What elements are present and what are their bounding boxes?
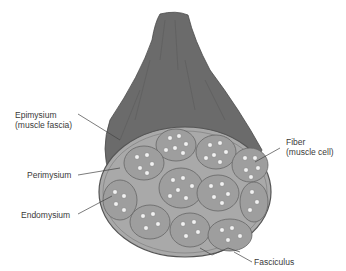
label-fiber: Fiber (muscle cell) xyxy=(286,137,334,157)
label-endomysium: Endomysium xyxy=(21,210,70,220)
label-fiber-line2: (muscle cell) xyxy=(286,147,334,157)
label-epimysium: Epimysium (muscle fascia) xyxy=(15,110,72,130)
label-perimysium: Perimysium xyxy=(27,170,71,180)
label-fasciculus: Fasciculus xyxy=(254,257,294,267)
muscle-diagram xyxy=(0,0,346,271)
label-epimysium-line2: (muscle fascia) xyxy=(15,120,72,130)
label-epimysium-line1: Epimysium xyxy=(15,110,72,120)
label-fiber-line1: Fiber xyxy=(286,137,334,147)
